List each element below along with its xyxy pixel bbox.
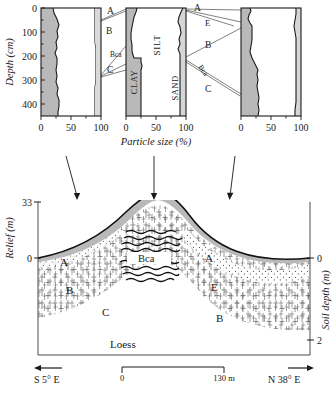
horizon-label-B-left: B: [66, 284, 73, 296]
arrow-left: [66, 156, 80, 200]
connector-label-C-right: C: [205, 84, 211, 94]
panel-middle-xtick-100: 100: [179, 122, 194, 133]
label-clay: CLAY: [129, 70, 139, 94]
panel-right: 0 50 100: [239, 8, 309, 133]
depth-axis-label: Depth (cm): [4, 38, 16, 87]
scale-tick-130: 130 m: [213, 373, 235, 383]
panel-left-xtick-50: 50: [66, 122, 76, 133]
panel-middle-x-ticks: [126, 116, 186, 120]
horizon-label-C: C: [102, 306, 109, 318]
connector-label-B-left: B: [106, 26, 112, 36]
panel-left-xtick-0: 0: [39, 122, 44, 133]
depth-tick-0: 0: [32, 3, 37, 14]
arrow-middle: [151, 156, 157, 200]
connector-label-C-left: C: [107, 65, 113, 75]
label-silt: SILT: [152, 35, 162, 56]
connector-label-B-right: B: [205, 40, 211, 50]
connectors-left: [101, 9, 126, 77]
connector-label-A-right: A: [194, 3, 201, 13]
panel-right-xtick-50: 50: [266, 122, 276, 133]
label-sand: SAND: [170, 75, 180, 100]
horizon-label-B-right: B: [216, 312, 223, 324]
arrow-right: [227, 156, 235, 200]
panel-right-xtick-100: 100: [294, 122, 309, 133]
soil-depth-axis: 0 2 Soil depth (m): [307, 253, 332, 346]
horizon-label-A-left: A: [60, 256, 68, 268]
soil-depth-tick-2: 2: [317, 335, 322, 346]
depth-tick-200: 200: [22, 51, 37, 62]
connectors-right: [186, 9, 241, 96]
bearing-label-right: N 38° E: [268, 374, 300, 385]
soil-depth-tick-0: 0: [317, 253, 322, 264]
relief-axis-label: Relief (m): [4, 217, 16, 260]
bearing-label-left: S 5° E: [34, 374, 60, 385]
soil-depth-axis-label: Soil depth (m): [320, 270, 332, 330]
panel-middle-xtick-50: 50: [151, 122, 161, 133]
panel-middle-clay-area: [126, 8, 142, 116]
panel-middle: 0 50 100 CLAY SILT SAND: [124, 8, 194, 133]
scale-bar: [122, 367, 224, 373]
connector-label-E-right: E: [205, 18, 210, 28]
connector-label-A-left: A: [107, 6, 114, 16]
relief-axis: 33 0 Relief (m): [4, 197, 41, 264]
panel-middle-xtick-0: 0: [124, 122, 129, 133]
soil-catena-figure: 0 50 100 0 100 200 300 400 Depth (cm) A …: [0, 0, 336, 393]
horizon-label-loess: Loess: [110, 338, 136, 350]
horizon-label-E: E: [211, 281, 218, 293]
relief-tick-0: 0: [27, 253, 32, 264]
panel-left: 0 50 100: [39, 8, 109, 133]
depth-tick-400: 400: [22, 99, 37, 110]
panel-right-x-ticks: [241, 116, 301, 120]
panel-left-x-ticks: [41, 116, 101, 120]
panel-right-clay-area: [241, 8, 259, 116]
horizon-label-A-right: A: [205, 252, 213, 264]
panel-left-clay-area: [41, 8, 59, 116]
panel-right-xtick-0: 0: [239, 122, 244, 133]
scale-tick-0: 0: [120, 373, 124, 383]
bearing-arrow-right: [288, 365, 314, 371]
depth-axis: 0 100 200 300 400 Depth (cm): [4, 3, 37, 110]
depth-tick-100: 100: [22, 27, 37, 38]
connector-label-Bca-left: Bca: [110, 50, 122, 59]
horizon-label-Bca: Bca: [138, 253, 155, 264]
panel-right-sand-area: [294, 8, 301, 116]
panel-left-xtick-100: 100: [94, 122, 109, 133]
particle-size-axis-label: Particle size (%): [120, 136, 192, 148]
depth-tick-300: 300: [22, 75, 37, 86]
cross-section: 33 0 Relief (m) 0 2 Soil depth (m) A A B…: [4, 191, 332, 385]
relief-tick-33: 33: [22, 197, 32, 208]
bearing-arrow-left: [34, 365, 62, 371]
